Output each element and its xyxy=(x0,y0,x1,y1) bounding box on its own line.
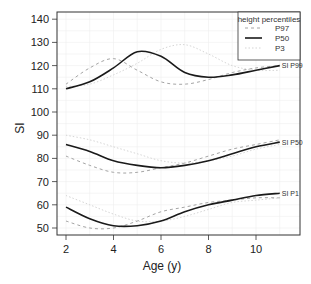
y-tick-label: 100 xyxy=(31,106,49,118)
y-tick-label: 80 xyxy=(37,152,49,164)
y-tick-label: 130 xyxy=(31,36,49,48)
legend-title: height percentiles xyxy=(238,15,301,24)
y-axis: 5060708090100110120130140 xyxy=(31,13,57,234)
x-axis-title: Age (y) xyxy=(143,259,182,273)
curve-label: SI P1 xyxy=(282,190,299,197)
x-axis: 246810 xyxy=(63,235,262,255)
y-tick-label: 60 xyxy=(37,199,49,211)
legend-label: P97 xyxy=(275,24,290,33)
y-tick-label: 50 xyxy=(37,222,49,234)
y-tick-label: 110 xyxy=(31,83,49,95)
legend-label: P50 xyxy=(275,34,290,43)
curve-p97 xyxy=(66,140,280,173)
curve-label: SI P50 xyxy=(282,139,303,146)
line-chart: 5060708090100110120130140 246810 SI Age … xyxy=(0,0,311,284)
y-tick-label: 90 xyxy=(37,129,49,141)
curve-p97 xyxy=(66,198,280,229)
y-tick-label: 120 xyxy=(31,60,49,72)
y-axis-title: SI xyxy=(13,122,27,133)
curve-label: SI P99 xyxy=(282,62,303,69)
legend: height percentiles P97P50P3 xyxy=(238,12,301,60)
x-tick-label: 10 xyxy=(250,243,262,255)
x-tick-label: 4 xyxy=(110,243,116,255)
y-tick-label: 70 xyxy=(37,176,49,188)
curves xyxy=(66,45,280,229)
curve-p3 xyxy=(66,196,280,222)
legend-label: P3 xyxy=(275,44,285,53)
y-tick-label: 140 xyxy=(31,13,49,25)
x-tick-label: 8 xyxy=(205,243,211,255)
x-tick-label: 2 xyxy=(63,243,69,255)
x-tick-label: 6 xyxy=(158,243,164,255)
